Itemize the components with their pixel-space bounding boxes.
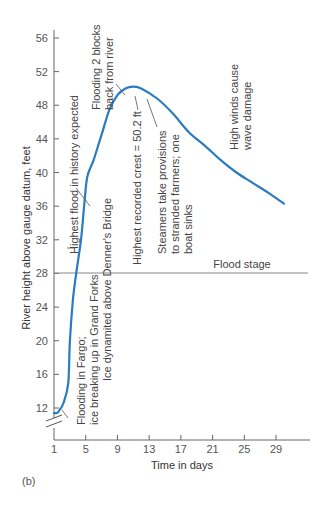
x-ticks: 1591317212529 <box>51 435 282 455</box>
y-ticks: 121620242832364044485256 <box>36 32 59 414</box>
y-tick-label: 32 <box>36 234 48 246</box>
annotation-fargo: Flooding in Fargo; ice breaking up in Gr… <box>75 274 100 425</box>
river-height-chart: 121620242832364044485256 1591317212529 F… <box>0 0 325 505</box>
annotation-winds: High winds cause wave damage <box>228 61 253 151</box>
y-tick-label: 28 <box>36 267 48 279</box>
x-tick-label: 1 <box>51 443 57 455</box>
y-axis <box>46 30 62 440</box>
flood-stage-label: Flood stage <box>213 258 270 270</box>
y-tick-label: 40 <box>36 167 48 179</box>
x-tick-label: 9 <box>114 443 120 455</box>
panel-label: (b) <box>22 475 35 487</box>
y-tick-label: 16 <box>36 368 48 380</box>
y-tick-label: 56 <box>36 32 48 44</box>
y-axis-title: River height above gauge datum, feet <box>20 146 32 329</box>
x-tick-label: 21 <box>206 443 218 455</box>
annotation-steamers: Steamers take provisions to stranded far… <box>156 127 194 254</box>
y-tick-label: 48 <box>36 99 48 111</box>
x-tick-label: 25 <box>238 443 250 455</box>
x-tick-label: 17 <box>175 443 187 455</box>
x-tick-label: 29 <box>270 443 282 455</box>
y-tick-label: 36 <box>36 200 48 212</box>
x-tick-label: 5 <box>83 443 89 455</box>
x-axis-title: Time in days <box>151 459 213 471</box>
annotation-highest-expected: Highest flood in history expected <box>68 95 80 254</box>
x-tick-label: 13 <box>143 443 155 455</box>
y-tick-label: 52 <box>36 66 48 78</box>
y-tick-label: 20 <box>36 335 48 347</box>
annotation-flooding-blocks: Flooding 2 blocks back from river <box>90 21 115 110</box>
y-tick-label: 44 <box>36 133 48 145</box>
annotation-denner-bridge: Ice dynamited above Denner's Bridge <box>101 198 113 381</box>
annotation-crest: Highest recorded crest = 50.2 ft <box>131 111 143 265</box>
y-tick-label: 24 <box>36 301 48 313</box>
y-tick-label: 12 <box>36 402 48 414</box>
